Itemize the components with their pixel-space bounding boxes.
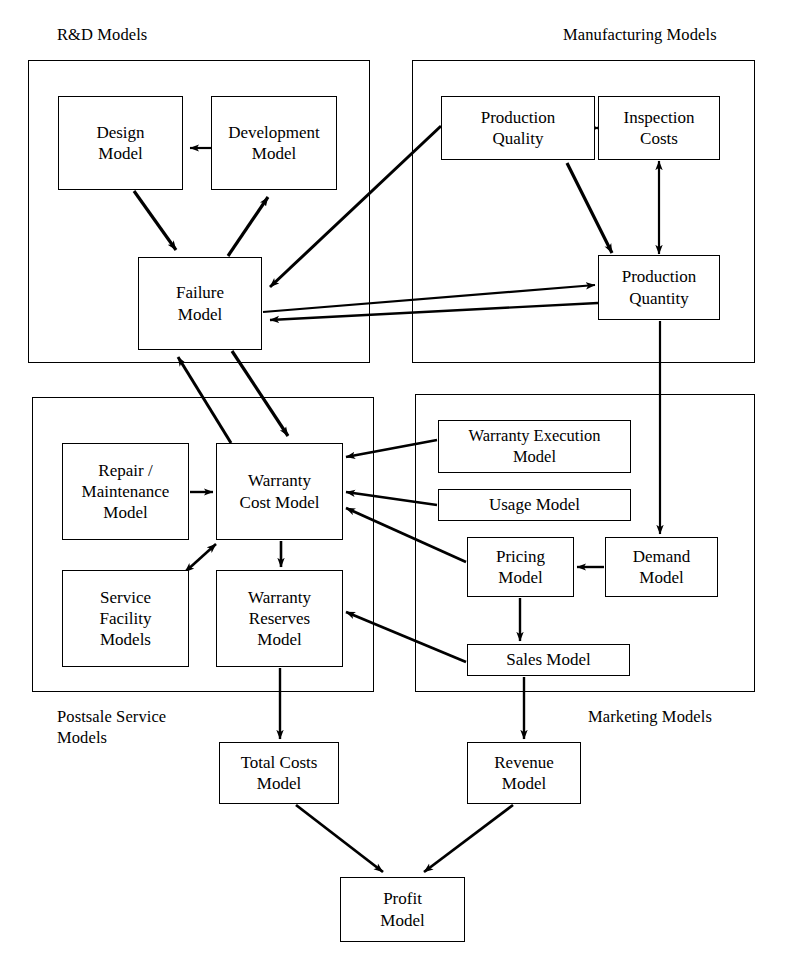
node-warranty-reserves-model[interactable]: Warranty Reserves Model [216, 570, 343, 667]
region-label-rnd: R&D Models [57, 24, 147, 45]
diagram-canvas: R&D Models Manufacturing Models Postsale… [0, 0, 787, 966]
node-demand-model[interactable]: Demand Model [605, 537, 718, 597]
node-production-quality[interactable]: Production Quality [441, 96, 595, 160]
node-pricing-model[interactable]: Pricing Model [467, 537, 574, 597]
node-repair-maintenance-model[interactable]: Repair / Maintenance Model [62, 443, 189, 540]
node-sales-model[interactable]: Sales Model [467, 644, 630, 676]
node-usage-model[interactable]: Usage Model [438, 489, 631, 521]
node-failure-model[interactable]: Failure Model [138, 257, 262, 350]
node-service-facility-models[interactable]: Service Facility Models [62, 570, 189, 667]
node-warranty-execution-model[interactable]: Warranty Execution Model [438, 420, 631, 473]
region-label-marketing: Marketing Models [588, 706, 712, 727]
node-profit-model[interactable]: Profit Model [340, 877, 465, 942]
region-label-postsale: Postsale Service Models [57, 706, 166, 748]
node-inspection-costs[interactable]: Inspection Costs [598, 96, 720, 160]
edge-totalcosts-to-profit [296, 805, 383, 872]
node-development-model[interactable]: Development Model [211, 96, 337, 190]
region-label-manufacturing: Manufacturing Models [563, 24, 717, 45]
node-revenue-model[interactable]: Revenue Model [467, 742, 581, 804]
node-design-model[interactable]: Design Model [58, 96, 183, 190]
node-warranty-cost-model[interactable]: Warranty Cost Model [216, 443, 343, 540]
node-total-costs-model[interactable]: Total Costs Model [219, 742, 339, 804]
edge-revenue-to-profit [424, 805, 513, 872]
node-production-quantity[interactable]: Production Quantity [598, 255, 720, 320]
